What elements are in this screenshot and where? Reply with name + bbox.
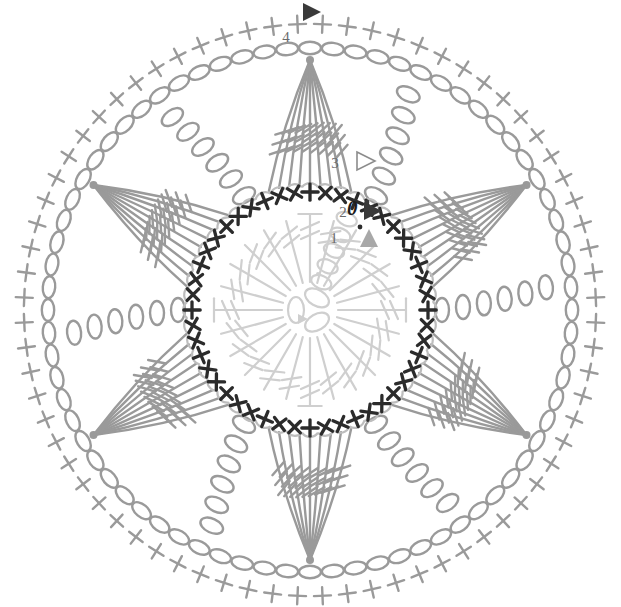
round-3-petals [66, 56, 554, 564]
crochet-chart-canvas: 01234 [0, 0, 621, 607]
marker-dot [365, 200, 370, 205]
round-label-1: 1 [330, 230, 338, 246]
marker-triangle-outline [357, 152, 375, 170]
marker-triangle-gray [360, 229, 378, 247]
round-label-3: 3 [331, 155, 339, 171]
marker-triangle-dark [303, 3, 321, 21]
round-label-4: 4 [282, 29, 290, 45]
marker-dot [358, 225, 363, 230]
round-label-2: 2 [339, 204, 347, 220]
round-1-center [214, 209, 406, 406]
start-chain-symbol: 0 [347, 196, 358, 220]
crochet-diagram-svg: 01234 [0, 0, 621, 607]
